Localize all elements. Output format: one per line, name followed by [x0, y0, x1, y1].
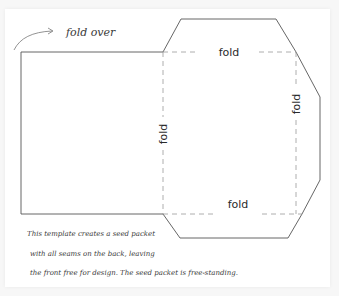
fold-label-left: fold: [157, 124, 170, 145]
description-line-2: with all seams on the back, leaving: [30, 250, 155, 258]
description-line-3: the front free for design. The seed pack…: [30, 269, 238, 277]
description-line-1: This template creates a seed packet: [27, 230, 155, 238]
seed-packet-template: fold over fold fold fold fold This templ…: [0, 0, 339, 296]
template-diagram: fold over fold fold fold fold This templ…: [0, 0, 339, 296]
fold-lines: [163, 52, 302, 214]
fold-label-bottom: fold: [228, 198, 249, 211]
fold-label-top: fold: [219, 46, 240, 59]
packet-outline: [21, 19, 320, 238]
fold-over-arrow-icon: [14, 28, 53, 50]
fold-over-label: fold over: [65, 26, 116, 39]
fold-label-right: fold: [290, 94, 303, 115]
